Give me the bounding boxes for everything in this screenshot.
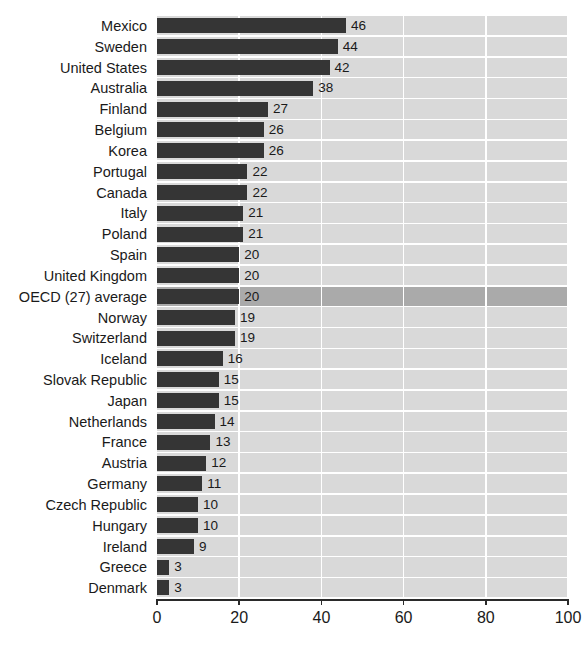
bar-value-label: 11 [207, 474, 221, 495]
x-axis-tick-label: 100 [555, 609, 582, 627]
category-label: Italy [0, 203, 152, 224]
bar-value-label: 20 [244, 245, 259, 266]
bar [157, 393, 219, 408]
category-label-column: MexicoSwedenUnited StatesAustraliaFinlan… [0, 16, 152, 599]
row-separator [157, 160, 568, 162]
bar [157, 310, 235, 325]
bar-value-label: 14 [220, 412, 235, 433]
bar-value-label: 26 [269, 120, 284, 141]
bar-value-label: 10 [203, 495, 218, 516]
bar [157, 206, 243, 221]
bar [157, 456, 206, 471]
bar-value-label: 3 [174, 557, 182, 578]
bar [157, 18, 346, 33]
category-label: Spain [0, 245, 152, 266]
bar-value-label: 19 [240, 328, 255, 349]
category-label: Iceland [0, 349, 152, 370]
bar [157, 435, 210, 450]
x-axis-tick [403, 599, 405, 605]
x-axis-tick [485, 599, 487, 605]
bar-value-label: 3 [174, 578, 182, 599]
bar [157, 81, 313, 96]
bar [157, 143, 264, 158]
gridline [485, 16, 487, 599]
bar [157, 331, 235, 346]
category-label: Mexico [0, 16, 152, 37]
category-label: Australia [0, 78, 152, 99]
x-axis-tick-label: 0 [153, 609, 162, 627]
category-label: Portugal [0, 162, 152, 183]
row-separator [157, 368, 568, 370]
category-label: Germany [0, 474, 152, 495]
x-axis-tick [156, 599, 158, 605]
bar [157, 122, 264, 137]
bar [157, 476, 202, 491]
bar-value-label: 21 [248, 203, 263, 224]
x-axis-tick-label: 20 [230, 609, 248, 627]
bar [157, 164, 247, 179]
category-label: Norway [0, 308, 152, 329]
bar-value-label: 46 [351, 16, 366, 37]
row-separator [157, 223, 568, 225]
bar [157, 247, 239, 262]
bar-value-label: 22 [252, 162, 267, 183]
bar [157, 227, 243, 242]
bar-value-label: 15 [224, 370, 239, 391]
gridline [321, 16, 323, 599]
bar [157, 268, 239, 283]
x-axis-tick [238, 599, 240, 605]
bar-value-label: 38 [318, 78, 333, 99]
row-separator [157, 389, 568, 391]
category-label: Poland [0, 224, 152, 245]
bar [157, 580, 169, 595]
category-label: United States [0, 58, 152, 79]
category-label: Ireland [0, 537, 152, 558]
bar-value-label: 20 [244, 287, 259, 308]
category-label: Austria [0, 453, 152, 474]
bar-chart: MexicoSwedenUnited StatesAustraliaFinlan… [0, 0, 585, 665]
bar [157, 518, 198, 533]
bar-value-label: 15 [224, 391, 239, 412]
bar [157, 539, 194, 554]
x-axis-tick [321, 599, 323, 605]
bar [157, 497, 198, 512]
bar-value-label: 42 [335, 58, 350, 79]
category-label: Hungary [0, 516, 152, 537]
category-label: United Kingdom [0, 266, 152, 287]
row-separator [157, 139, 568, 141]
bar [157, 185, 247, 200]
category-label: Netherlands [0, 412, 152, 433]
category-label: Greece [0, 557, 152, 578]
category-label: Slovak Republic [0, 370, 152, 391]
row-separator [157, 98, 568, 100]
row-separator [157, 577, 568, 579]
row-separator [157, 556, 568, 558]
gridline [403, 16, 405, 599]
bar-value-label: 27 [273, 99, 288, 120]
bar-value-label: 12 [211, 453, 226, 474]
bar-value-label: 16 [228, 349, 243, 370]
bar-value-label: 9 [199, 537, 207, 558]
category-label: Switzerland [0, 328, 152, 349]
row-separator [157, 514, 568, 516]
row-separator [157, 535, 568, 537]
bar-value-label: 22 [252, 183, 267, 204]
gridline [567, 16, 568, 599]
bar-value-label: 44 [343, 37, 358, 58]
row-separator [157, 327, 568, 329]
category-label: Japan [0, 391, 152, 412]
bar [157, 39, 338, 54]
row-separator [157, 119, 568, 121]
category-label: Canada [0, 183, 152, 204]
category-label: Finland [0, 99, 152, 120]
bar [157, 289, 239, 304]
category-label: Belgium [0, 120, 152, 141]
category-label: Korea [0, 141, 152, 162]
category-label: Czech Republic [0, 495, 152, 516]
bar [157, 372, 219, 387]
x-axis-tick-label: 60 [395, 609, 413, 627]
bar [157, 351, 223, 366]
row-separator [157, 202, 568, 204]
row-separator [157, 264, 568, 266]
row-separator [157, 348, 568, 350]
